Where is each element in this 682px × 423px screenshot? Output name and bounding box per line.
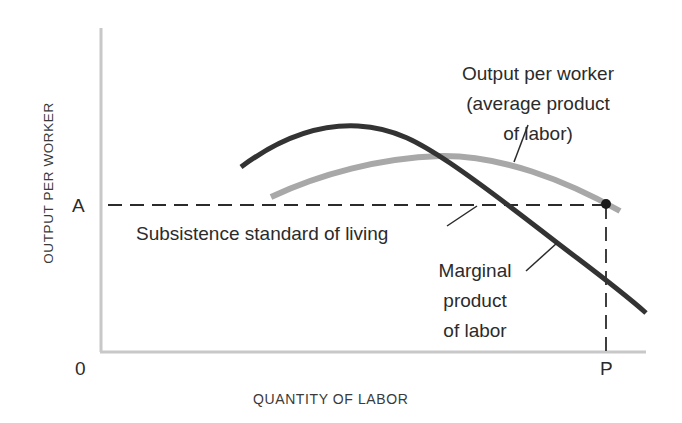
avg-product-label-line2: (average product xyxy=(438,89,638,119)
p-tick-label: P xyxy=(600,359,613,378)
subsistence-leader-line xyxy=(447,206,477,226)
average-product-curve xyxy=(271,156,620,211)
avg-product-annotation: Output per worker (average product of la… xyxy=(438,59,638,149)
marginal-leader-line xyxy=(526,243,557,271)
marginal-label-line1: Marginal xyxy=(420,256,530,286)
marginal-label-line2: product xyxy=(420,286,530,316)
avg-product-label-line1: Output per worker xyxy=(438,59,638,89)
marginal-label-line3: of labor xyxy=(420,316,530,346)
x-axis-label: QUANTITY OF LABOR xyxy=(253,392,408,406)
avg-product-label-line3: of labor) xyxy=(438,119,638,149)
marginal-product-annotation: Marginal product of labor xyxy=(420,256,530,346)
subsistence-label: Subsistence standard of living xyxy=(136,219,388,249)
subsistence-point-marker xyxy=(601,199,611,209)
y-axis-label: OUTPUT PER WORKER xyxy=(41,102,56,263)
origin-label: 0 xyxy=(75,359,86,378)
a-tick-label: A xyxy=(72,196,85,215)
